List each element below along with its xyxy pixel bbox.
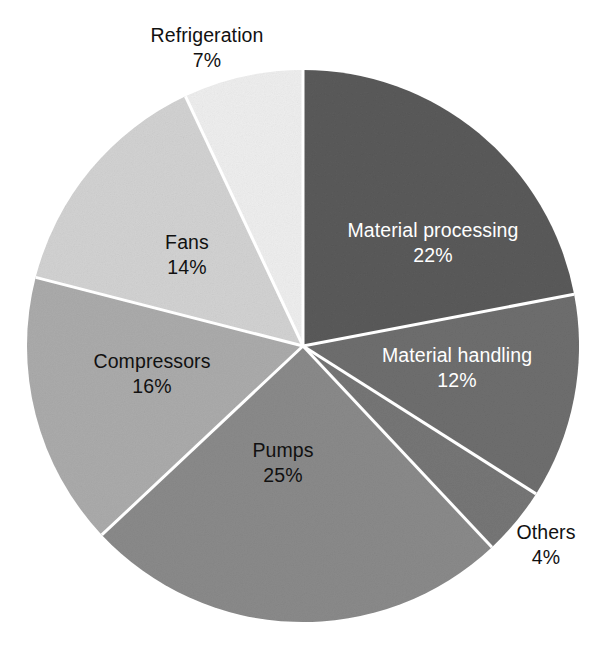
- pie-chart: Material processing22%Material handling1…: [0, 0, 612, 659]
- pie-chart-canvas: [0, 0, 612, 659]
